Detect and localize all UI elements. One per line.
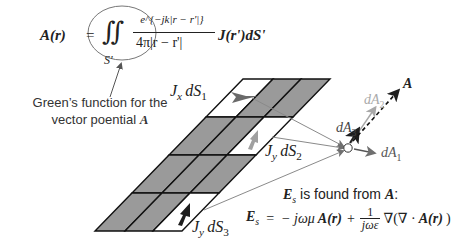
eq-A-equals: = (86, 28, 94, 43)
eq-A-denominator: 4π|r − r'| (136, 36, 182, 50)
label-jx-ds1: Jx dS1 (170, 82, 207, 102)
eq-A-domain: S' (104, 54, 113, 66)
eq-A-numerator: e^{−jk|r − r'|} (132, 14, 212, 25)
eq-A-integral: ∬ (102, 19, 124, 45)
greens-caption-line2: vector poential A (20, 111, 180, 128)
greens-pointer-arrow (110, 64, 121, 97)
eq-A-fraction-bar (133, 32, 215, 33)
eq-E-fraction: 1 jωε (360, 206, 381, 231)
label-dA3: dA3 (336, 120, 356, 138)
greens-function-caption: Green’s function for the vector poential… (20, 94, 180, 128)
equation-E: Es = − jωμA(r) + 1 jωε ∇(∇ · A(r)) (246, 206, 451, 231)
label-dA1: dA1 (381, 145, 401, 163)
label-dA2: dA2 (364, 92, 384, 110)
label-jy-ds3: Jy dS3 (192, 218, 229, 238)
eq-A-lhs: A(r) (40, 28, 66, 43)
dA1-arrow (354, 149, 374, 153)
observation-point (344, 144, 352, 152)
diagram-stage: A(r) = ∬ S' e^{−jk|r − r'|} 4π|r − r'| J… (0, 0, 452, 250)
label-jy-ds2: Jy dS2 (265, 142, 302, 162)
es-statement: Es is found from A: (283, 186, 398, 205)
eq-A-tail: J(r')dS' (218, 28, 266, 43)
label-A: A (403, 76, 412, 92)
greens-caption-line1: Green’s function for the (20, 94, 180, 111)
